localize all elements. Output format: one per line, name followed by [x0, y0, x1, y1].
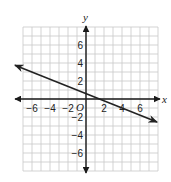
origin-label: O [76, 101, 84, 113]
y-tick-label: 2 [77, 76, 83, 87]
x-tick-label: −6 [26, 103, 38, 114]
x-tick-label: −4 [44, 103, 56, 114]
x-tick-label: 2 [101, 103, 107, 114]
y-tick-label: −2 [72, 112, 84, 123]
y-tick-label: 4 [77, 58, 83, 69]
axes [15, 26, 160, 173]
coordinate-plane: −6−4−2246642−2−4−6 x y O [0, 0, 171, 182]
y-tick-label: −4 [72, 130, 84, 141]
x-tick-label: 6 [137, 103, 143, 114]
y-tick-label: −6 [72, 148, 84, 159]
y-axis-label: y [82, 11, 88, 23]
x-axis-label: x [161, 93, 167, 105]
y-tick-label: 6 [77, 40, 83, 51]
